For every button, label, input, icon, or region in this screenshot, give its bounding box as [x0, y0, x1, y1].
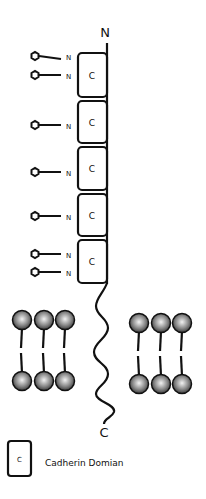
- lipid-head: [152, 314, 171, 333]
- lipid-head: [173, 375, 192, 394]
- lipid-tail: [138, 331, 139, 351]
- glycan-hexagon-icon: [32, 212, 39, 220]
- lipid-tail: [160, 356, 161, 376]
- glycan-n-label: N: [66, 270, 71, 278]
- c-terminus-label: C: [99, 425, 108, 440]
- lipid-head: [152, 375, 171, 394]
- lipid-tail: [181, 331, 182, 351]
- phospholipid-pair: [130, 314, 149, 394]
- domain-letter: C: [89, 164, 95, 174]
- glycan-hexagon-icon: [32, 268, 39, 276]
- glycan-site: N: [32, 212, 72, 222]
- glycan-site: N: [32, 250, 72, 260]
- lipid-tail: [64, 353, 65, 373]
- glycan-n-label: N: [66, 123, 71, 131]
- domain-letter: C: [89, 71, 95, 81]
- domain-4: C: [78, 194, 107, 236]
- lipid-tail: [181, 356, 182, 376]
- legend-label: Cadherin Domian: [45, 458, 123, 468]
- cadherin-diagram: N C C C C C NNNNNNN C C Cadherin Domian: [0, 0, 206, 499]
- glycan-hexagon-icon: [32, 52, 39, 60]
- lipid-head: [130, 314, 149, 333]
- domain-letter: C: [89, 257, 95, 267]
- glycan-site: N: [32, 168, 72, 178]
- lipid-tail: [138, 356, 139, 376]
- lipid-tail: [43, 353, 44, 373]
- phospholipid-pair: [173, 314, 192, 394]
- lipid-head: [173, 314, 192, 333]
- domain-1: C: [78, 53, 107, 97]
- domain-letter: C: [89, 211, 95, 221]
- glycan-n-label: N: [66, 170, 71, 178]
- phospholipid-pair: [13, 311, 32, 391]
- domain-2: C: [78, 101, 107, 143]
- lipid-tail: [160, 331, 161, 351]
- glycan-site: N: [32, 52, 72, 62]
- lipid-head: [56, 372, 75, 391]
- domain-5: C: [78, 240, 107, 283]
- glycan-hexagon-icon: [32, 250, 39, 258]
- glycan-site: N: [32, 268, 72, 278]
- phospholipid-pair: [152, 314, 171, 394]
- lipid-head: [35, 311, 54, 330]
- domain-letter: C: [89, 118, 95, 128]
- lipid-head: [13, 372, 32, 391]
- glycan-hexagon-icon: [32, 121, 39, 129]
- lipid-tail: [21, 353, 22, 373]
- glycan-sites: NNNNNNN: [32, 52, 72, 278]
- lipid-head: [56, 311, 75, 330]
- lipid-bilayer-left: [13, 311, 75, 391]
- n-terminus-label: N: [100, 25, 110, 40]
- lipid-tail: [43, 328, 44, 348]
- lipid-bilayer-right: [130, 314, 192, 394]
- glycan-n-label: N: [66, 252, 71, 260]
- glycan-hexagon-icon: [32, 71, 39, 79]
- phospholipid-pair: [56, 311, 75, 391]
- lipid-tail: [64, 328, 65, 348]
- lipid-head: [13, 311, 32, 330]
- glycan-stem: [39, 56, 61, 59]
- domain-3: C: [78, 147, 107, 190]
- glycan-n-label: N: [66, 54, 71, 62]
- glycan-hexagon-icon: [32, 168, 39, 176]
- cytoplasmic-tail: [94, 283, 114, 424]
- glycan-site: N: [32, 71, 72, 81]
- legend-symbol-letter: C: [17, 456, 22, 464]
- lipid-tail: [21, 328, 22, 348]
- glycan-n-label: N: [66, 73, 71, 81]
- lipid-head: [130, 375, 149, 394]
- lipid-head: [35, 372, 54, 391]
- legend: C Cadherin Domian: [8, 441, 123, 476]
- glycan-site: N: [32, 121, 72, 131]
- phospholipid-pair: [35, 311, 54, 391]
- glycan-n-label: N: [66, 214, 71, 222]
